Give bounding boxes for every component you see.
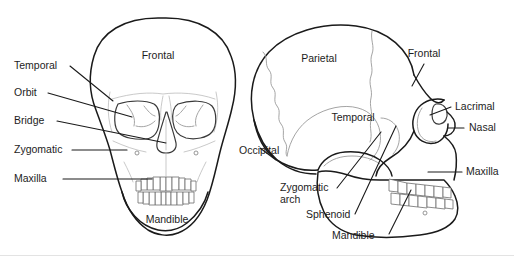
label-temporal-anterior: Temporal (14, 59, 57, 71)
label-temporal-lateral: Temporal (331, 111, 374, 123)
label-frontal-anterior: Frontal (142, 49, 175, 61)
label-frontal-lateral: Frontal (408, 47, 441, 59)
sphenoid-wedge (381, 118, 399, 154)
coronal-suture (370, 31, 373, 142)
label-zygomatic-arch-line1: Zygomatic (280, 181, 328, 193)
lacrimal-bone (432, 104, 447, 124)
anterior-skull-group: Temporal Orbit Bridge Zygomatic Maxilla … (14, 18, 235, 235)
lower-teeth-row (138, 192, 194, 205)
label-mandible-lateral: Mandible (332, 229, 375, 241)
label-occipital: Occipital (239, 144, 279, 156)
label-maxilla-lateral: Maxilla (466, 165, 499, 177)
label-orbit: Orbit (14, 86, 37, 98)
skull-anatomy-figure: Temporal Orbit Bridge Zygomatic Maxilla … (0, 0, 514, 256)
orbit-right (173, 101, 216, 139)
infraorbital-foramen-right (194, 151, 198, 155)
label-mandible-anterior: Mandible (146, 213, 189, 225)
skull-diagram-svg: Temporal Orbit Bridge Zygomatic Maxilla … (0, 0, 514, 256)
label-bridge: Bridge (14, 114, 45, 126)
lateral-skull-group: Parietal Frontal Temporal Occipital Lacr… (239, 25, 499, 241)
label-parietal: Parietal (301, 52, 337, 64)
mental-foramen (423, 211, 427, 215)
zygomatic-arch-inner (324, 156, 380, 166)
infraorbital-foramen-left (135, 151, 139, 155)
label-maxilla-anterior: Maxilla (14, 172, 47, 184)
label-zygomatic-arch-line2: arch (280, 193, 301, 205)
label-sphenoid: Sphenoid (306, 208, 351, 220)
lateral-maxilla-lower (376, 131, 414, 176)
lateral-maxilla-outline (444, 136, 456, 180)
label-lacrimal: Lacrimal (455, 100, 495, 112)
label-zygomatic-anterior: Zygomatic (14, 143, 62, 155)
lambdoid-suture (263, 52, 287, 156)
label-nasal: Nasal (469, 121, 496, 133)
